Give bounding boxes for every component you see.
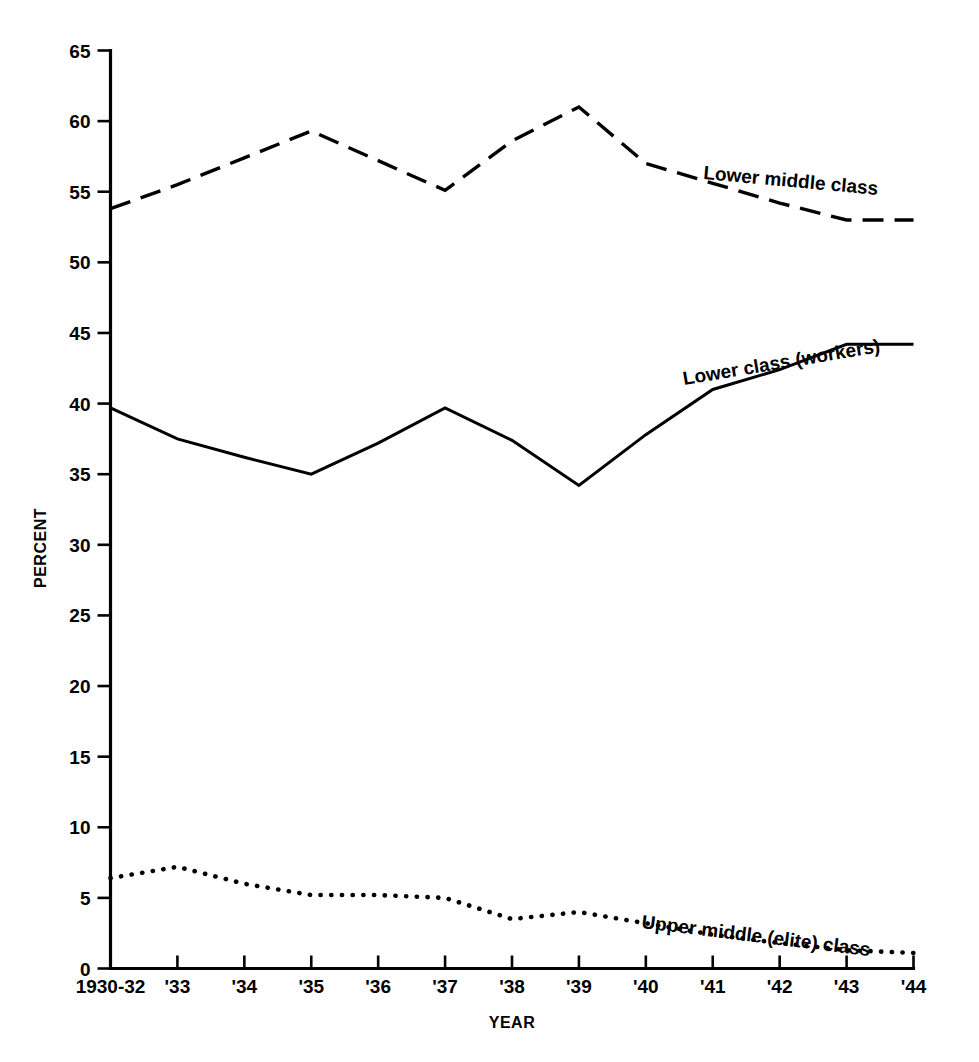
x-tick-label: '34 [232, 976, 258, 997]
y-tick-label: 55 [69, 182, 91, 203]
x-tick-label: 1930-32 [76, 976, 146, 997]
y-tick-label: 45 [69, 323, 91, 344]
x-tick-label: '41 [700, 976, 726, 997]
x-tick-label: '43 [834, 976, 860, 997]
y-axis-title: PERCENT [32, 508, 49, 588]
y-tick-label: 10 [69, 817, 90, 838]
x-tick-label: '39 [566, 976, 592, 997]
y-tick-label: 20 [69, 676, 90, 697]
y-tick-label: 25 [69, 605, 91, 626]
x-tick-label: '40 [633, 976, 659, 997]
y-tick-label: 60 [69, 111, 90, 132]
x-tick-label: '35 [298, 976, 324, 997]
x-tick-label: '37 [432, 976, 458, 997]
x-axis-title: YEAR [489, 1014, 535, 1031]
y-tick-label: 30 [69, 535, 90, 556]
y-tick-label: 50 [69, 252, 90, 273]
line-chart: 05101520253035404550556065 1930-32'33'34… [0, 0, 979, 1062]
x-tick-label: '33 [165, 976, 191, 997]
y-tick-label: 65 [69, 41, 91, 62]
x-tick-label: '42 [767, 976, 793, 997]
y-tick-label: 40 [69, 394, 90, 415]
chart-container: 05101520253035404550556065 1930-32'33'34… [0, 0, 979, 1062]
chart-background [0, 0, 979, 1062]
y-tick-label: 35 [69, 464, 91, 485]
x-tick-label: '44 [901, 976, 927, 997]
x-tick-label: '36 [365, 976, 391, 997]
y-tick-label: 5 [80, 888, 91, 909]
y-tick-label: 15 [69, 747, 91, 768]
x-tick-label: '38 [499, 976, 525, 997]
